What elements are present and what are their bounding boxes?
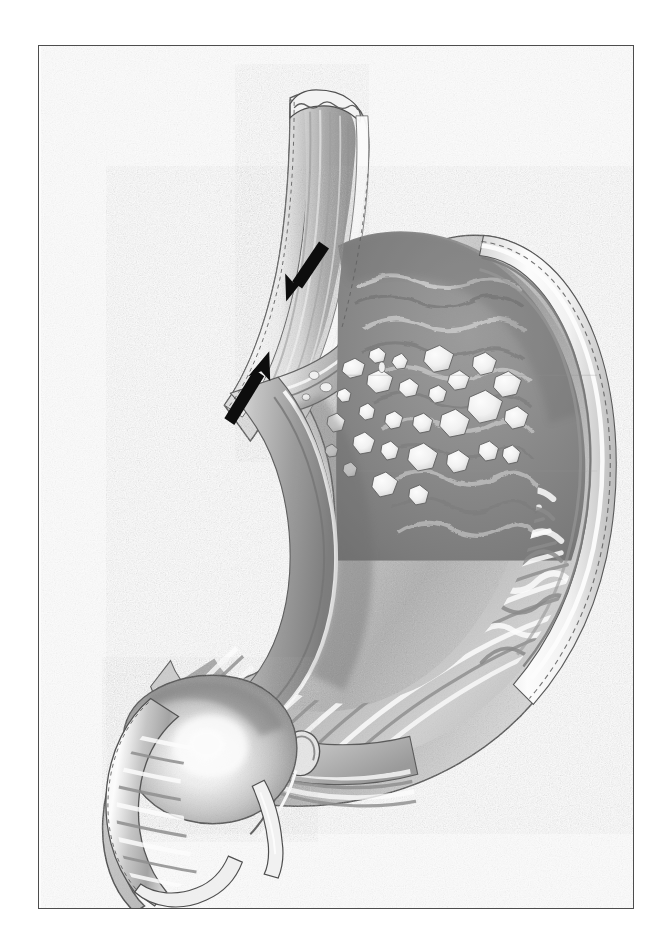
stomach-illustration	[39, 46, 633, 908]
print-grain-overlay	[39, 46, 633, 908]
figure-root	[0, 0, 672, 940]
figure-border	[38, 45, 634, 909]
